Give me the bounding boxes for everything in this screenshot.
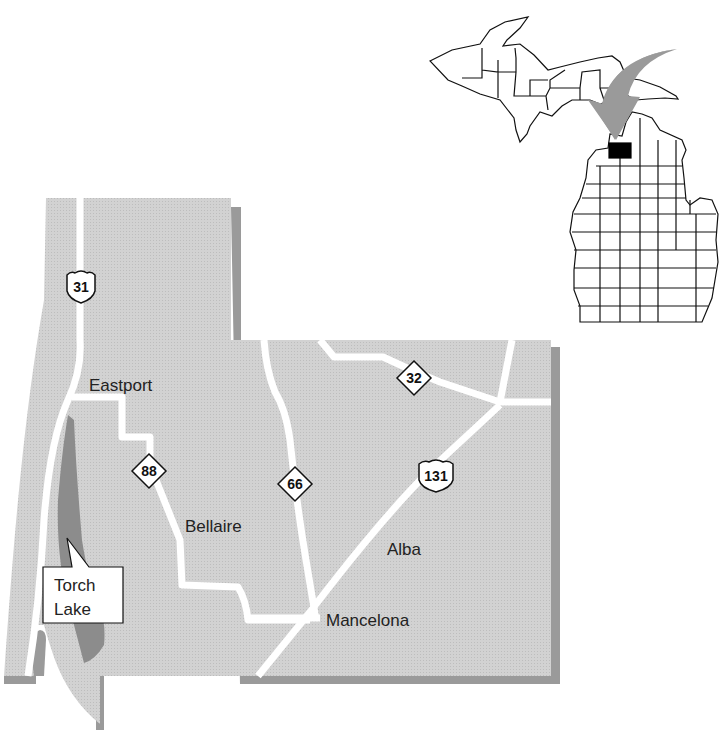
callout-line1: Torch xyxy=(54,576,96,595)
m88-label: 88 xyxy=(141,463,157,479)
highlighted-county xyxy=(609,143,631,158)
us31-label: 31 xyxy=(73,279,89,295)
m66-label: 66 xyxy=(287,476,303,492)
m32-label: 32 xyxy=(406,370,422,386)
town-eastport: Eastport xyxy=(89,376,153,395)
callout-line2: Lake xyxy=(54,600,91,619)
michigan-locator-map xyxy=(430,17,718,322)
us131-label: 131 xyxy=(424,468,448,484)
town-bellaire: Bellaire xyxy=(185,517,242,536)
us131-shield: 131 xyxy=(419,460,453,492)
town-alba: Alba xyxy=(387,540,422,559)
county-map: 31 131 88 66 32 Eastport Bellaire Alba M… xyxy=(0,0,720,730)
us31-shield: 31 xyxy=(67,271,95,303)
town-mancelona: Mancelona xyxy=(326,611,410,630)
